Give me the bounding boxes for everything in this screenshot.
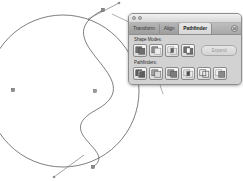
merge-icon xyxy=(167,69,178,78)
exclude-icon xyxy=(183,46,194,55)
shape-mode-intersect-button[interactable] xyxy=(165,44,179,57)
minus-back-icon xyxy=(215,69,226,78)
shape-mode-exclude-button[interactable] xyxy=(181,44,195,57)
tab-transform-label: Transform xyxy=(133,26,155,31)
pathfinder-merge-button[interactable] xyxy=(165,67,179,80)
minus-front-icon xyxy=(151,46,162,55)
outline-icon xyxy=(199,69,210,78)
tab-pathfinder[interactable]: Pathfinder xyxy=(179,23,212,34)
tab-align-label: Align xyxy=(164,26,175,31)
panel-body: Shape Modes: xyxy=(129,35,241,84)
panel-titlebar[interactable] xyxy=(129,14,241,23)
pathfinder-crop-button[interactable] xyxy=(181,67,195,80)
expand-button[interactable]: Expand xyxy=(201,45,237,56)
shape-mode-minus-front-button[interactable] xyxy=(149,44,163,57)
shape-modes-row: Expand xyxy=(133,44,237,57)
tab-transform[interactable]: Transform xyxy=(129,23,160,34)
pathfinder-divide-button[interactable] xyxy=(133,67,147,80)
trim-icon xyxy=(151,69,162,78)
intersect-icon xyxy=(167,46,178,55)
unite-icon xyxy=(135,46,146,55)
pathfinders-row xyxy=(133,67,237,80)
pathfinder-outline-button[interactable] xyxy=(197,67,211,80)
expand-button-label: Expand xyxy=(212,48,227,53)
crop-icon xyxy=(183,69,194,78)
pathfinder-panel[interactable]: Transform Align Pathfinder Shape Modes: xyxy=(128,13,242,85)
tab-align[interactable]: Align xyxy=(160,23,180,34)
menu-lines-icon xyxy=(232,26,237,31)
shape-modes-label: Shape Modes: xyxy=(134,37,237,43)
tab-pathfinder-label: Pathfinder xyxy=(183,26,207,31)
shape-mode-unite-button[interactable] xyxy=(133,44,147,57)
close-icon[interactable] xyxy=(132,16,136,20)
panel-menu-icon[interactable] xyxy=(231,25,238,32)
pathfinder-minus-back-button[interactable] xyxy=(213,67,227,80)
panel-tab-bar[interactable]: Transform Align Pathfinder xyxy=(129,23,241,35)
divide-icon xyxy=(135,69,146,78)
minimize-icon[interactable] xyxy=(138,16,142,20)
pathfinders-label: Pathfinders: xyxy=(134,60,237,66)
pathfinder-trim-button[interactable] xyxy=(149,67,163,80)
